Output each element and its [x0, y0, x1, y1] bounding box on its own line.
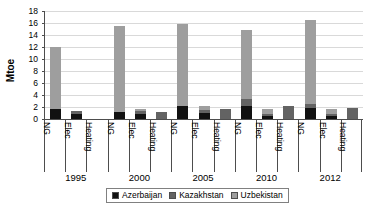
gridline	[45, 11, 363, 12]
y-axis-tickmark	[42, 23, 45, 24]
category-label-ng: NG	[296, 122, 305, 135]
legend-swatch-icon	[169, 192, 176, 199]
bar-2012-heating	[347, 108, 358, 119]
bar-2010-heating	[283, 106, 294, 119]
plot-area	[44, 11, 363, 120]
bar-segment-azerbaijan	[241, 106, 252, 119]
y-axis-tick-label: 4	[18, 91, 38, 100]
legend-item-uzbekistan[interactable]: Uzbekistan	[231, 191, 283, 200]
category-label-elec: Elec	[190, 122, 199, 139]
y-axis-tickmark	[42, 35, 45, 36]
category-label-heating: Heating	[84, 122, 93, 151]
y-axis-tickmark	[42, 107, 45, 108]
bar-segment-uzbekistan	[50, 47, 61, 109]
y-axis-tick-label: 2	[18, 103, 38, 112]
category-label-heating: Heating	[275, 122, 284, 151]
bar-segment-azerbaijan	[114, 112, 125, 119]
year-label-2012: 2012	[298, 172, 362, 184]
category-label-elec: Elec	[126, 122, 135, 139]
bar-segment-kazakhstan	[156, 112, 167, 120]
y-axis-tick-label: 12	[18, 43, 38, 52]
bar-1995-elec	[71, 111, 82, 119]
category-label-ng: NG	[105, 122, 114, 135]
legend-label: Uzbekistan	[241, 191, 283, 200]
category-cell: Heating	[341, 120, 362, 172]
y-axis-tick-label: 14	[18, 31, 38, 40]
legend-swatch-icon	[112, 192, 119, 199]
year-label-2010: 2010	[235, 172, 299, 184]
chart-legend: AzerbaijanKazakhstanUzbekistan	[106, 188, 289, 203]
y-axis-tick-label: 0	[18, 115, 38, 124]
bar-segment-uzbekistan	[305, 20, 316, 104]
y-axis-tickmark	[42, 47, 45, 48]
bar-segment-azerbaijan	[305, 108, 316, 119]
bar-2010-elec	[262, 109, 273, 119]
stacked-bar-chart: Mtoe 181614121086420 NGElecHeatingNGElec…	[0, 0, 374, 207]
legend-swatch-icon	[231, 192, 238, 199]
bar-2000-ng	[114, 26, 125, 119]
y-axis-tickmark	[42, 11, 45, 12]
bar-2005-ng	[177, 24, 188, 119]
bar-segment-azerbaijan	[50, 109, 61, 119]
bar-2012-elec	[326, 109, 337, 119]
legend-item-kazakhstan[interactable]: Kazakhstan	[169, 191, 223, 200]
bar-2010-ng	[241, 30, 252, 119]
bar-segment-uzbekistan	[177, 24, 188, 106]
y-axis-tickmark	[42, 83, 45, 84]
y-axis-tick-label: 16	[18, 19, 38, 28]
bar-segment-kazakhstan	[220, 109, 231, 120]
y-axis-title-text: Mtoe	[6, 58, 17, 81]
category-label-ng: NG	[42, 122, 51, 135]
y-axis-tick-label: 8	[18, 67, 38, 76]
bar-1995-ng	[50, 47, 61, 119]
legend-label: Kazakhstan	[179, 191, 223, 200]
y-axis-tick-label: 6	[18, 79, 38, 88]
bar-segment-azerbaijan	[326, 116, 337, 119]
bar-2012-ng	[305, 20, 316, 119]
bar-2000-heating	[156, 112, 167, 120]
y-axis-tick-labels: 181614121086420	[18, 11, 38, 119]
bar-segment-azerbaijan	[199, 113, 210, 119]
category-label-heating: Heating	[338, 122, 347, 151]
y-axis-tick-label: 18	[18, 7, 38, 16]
legend-label: Azerbaijan	[122, 191, 162, 200]
legend-item-azerbaijan[interactable]: Azerbaijan	[112, 191, 162, 200]
category-label-elec: Elec	[317, 122, 326, 139]
year-label-2005: 2005	[171, 172, 235, 184]
bar-segment-azerbaijan	[177, 106, 188, 119]
y-axis-tickmark	[42, 95, 45, 96]
category-cell: Elec	[192, 120, 213, 172]
year-label-1995: 1995	[44, 172, 108, 184]
year-label-2000: 2000	[108, 172, 172, 184]
bar-2005-heating	[220, 109, 231, 120]
bar-segment-kazakhstan	[283, 106, 294, 119]
category-label-heating: Heating	[211, 122, 220, 151]
bar-2000-elec	[135, 109, 146, 120]
category-label-heating: Heating	[148, 122, 157, 151]
y-axis-tick-label: 10	[18, 55, 38, 64]
bar-segment-azerbaijan	[71, 114, 82, 119]
category-label-elec: Elec	[63, 122, 72, 139]
y-axis-tickmark	[42, 71, 45, 72]
category-label-ng: NG	[232, 122, 241, 135]
bar-segment-kazakhstan	[241, 99, 252, 106]
y-axis-title: Mtoe	[4, 30, 18, 110]
year-label-strip: 19952000200520102012	[44, 172, 362, 186]
bar-segment-kazakhstan	[347, 108, 358, 119]
bar-2005-elec	[199, 106, 210, 120]
bar-segment-azerbaijan	[262, 116, 273, 119]
category-label-strip: NGElecHeatingNGElecHeatingNGElecHeatingN…	[44, 120, 362, 172]
category-label-ng: NG	[169, 122, 178, 135]
category-cell: Heating	[86, 120, 107, 172]
bar-segment-uzbekistan	[241, 30, 252, 99]
bar-segment-azerbaijan	[135, 114, 146, 119]
category-cell: NG	[298, 120, 319, 172]
category-label-elec: Elec	[254, 122, 263, 139]
y-axis-tickmark	[42, 59, 45, 60]
bar-segment-uzbekistan	[114, 26, 125, 112]
